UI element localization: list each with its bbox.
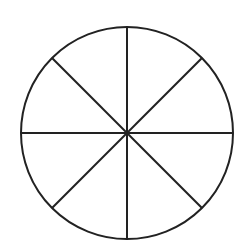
sector-dividers — [21, 27, 233, 239]
diagram-canvas — [0, 0, 247, 252]
divided-circle — [0, 0, 247, 252]
